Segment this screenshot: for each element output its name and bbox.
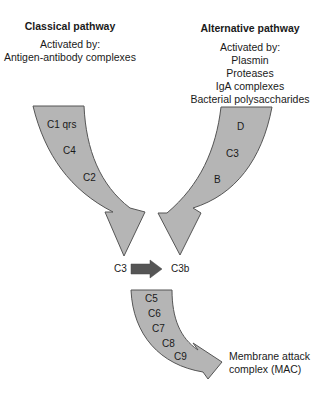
alternative-activator: Bacterial polysaccharides — [180, 93, 317, 106]
alternative-title: Alternative pathway — [180, 22, 317, 34]
component-label: C2 — [83, 172, 96, 183]
component-label: C8 — [162, 338, 175, 349]
component-label: C5 — [145, 293, 158, 304]
component-label: C1 qrs — [47, 119, 76, 130]
conversion-from: C3 — [114, 263, 127, 274]
component-label: C4 — [63, 145, 76, 156]
component-label: C3 — [226, 148, 239, 159]
conversion-to: C3b — [171, 263, 189, 274]
alternative-activator: Plasmin — [180, 54, 317, 67]
classical-activator: Antigen-antibody complexes — [0, 51, 140, 64]
conversion-arrow — [131, 260, 162, 278]
component-label: C9 — [174, 351, 187, 362]
alternative-activator: Proteases — [180, 67, 317, 80]
component-label: C7 — [152, 323, 165, 334]
mac-label-line1: Membrane attack — [229, 350, 310, 363]
alternative-activated-label: Activated by: — [180, 41, 317, 54]
component-label: D — [237, 121, 244, 132]
classical-title: Classical pathway — [10, 20, 130, 32]
alternative-activator: IgA complexes — [180, 80, 317, 93]
component-label: C6 — [148, 308, 161, 319]
mac-label-line2: complex (MAC) — [229, 363, 301, 376]
classical-activated-label: Activated by: — [0, 38, 140, 51]
component-label: B — [214, 174, 221, 185]
